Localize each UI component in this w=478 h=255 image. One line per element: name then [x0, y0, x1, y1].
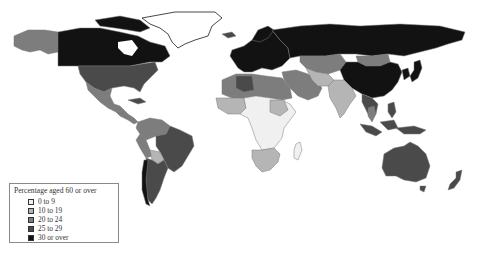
region-new-zealand — [448, 170, 462, 190]
region-west-africa — [216, 98, 246, 114]
legend-item-25-to-29: 25 to 29 — [28, 224, 115, 233]
region-algeria — [236, 76, 254, 92]
region-thailand — [368, 106, 376, 122]
legend-label: 10 to 19 — [38, 206, 62, 215]
region-madagascar — [294, 142, 302, 160]
region-japan — [410, 60, 422, 82]
region-korea — [402, 68, 410, 80]
legend-title: Percentage aged 60 or over — [14, 186, 115, 196]
region-alaska — [14, 30, 58, 54]
legend-label: 20 to 24 — [38, 215, 62, 224]
legend-item-0-to-9: 0 to 9 — [28, 197, 115, 206]
legend-label: 0 to 9 — [38, 197, 55, 206]
region-canada — [58, 28, 170, 66]
region-russia — [272, 24, 465, 58]
legend-list: 0 to 9 10 to 19 20 to 24 25 to 29 30 or … — [28, 197, 115, 242]
legend-swatch-10-to-19 — [28, 208, 34, 214]
map-legend: Percentage aged 60 or over 0 to 9 10 to … — [9, 183, 119, 243]
region-indonesia — [360, 120, 426, 136]
legend-item-20-to-24: 20 to 24 — [28, 215, 115, 224]
legend-item-30-or-over: 30 or over — [28, 233, 115, 242]
legend-swatch-30-or-over — [28, 235, 34, 241]
region-philippines — [388, 102, 396, 118]
legend-label: 25 to 29 — [38, 224, 62, 233]
region-greenland — [142, 12, 222, 48]
region-southern-cone — [146, 158, 168, 204]
legend-swatch-0-to-9 — [28, 199, 34, 205]
legend-swatch-20-to-24 — [28, 217, 34, 223]
region-caribbean — [128, 98, 146, 104]
region-iceland — [222, 32, 236, 38]
region-central-asia — [300, 54, 346, 74]
region-southern-africa — [252, 148, 280, 172]
region-tasmania — [420, 186, 426, 192]
legend-label: 30 or over — [38, 233, 68, 242]
legend-item-10-to-19: 10 to 19 — [28, 206, 115, 215]
region-australia — [382, 142, 430, 182]
legend-swatch-25-to-29 — [28, 226, 34, 232]
region-central-america — [116, 110, 138, 124]
region-sub-saharan-africa — [240, 96, 296, 150]
